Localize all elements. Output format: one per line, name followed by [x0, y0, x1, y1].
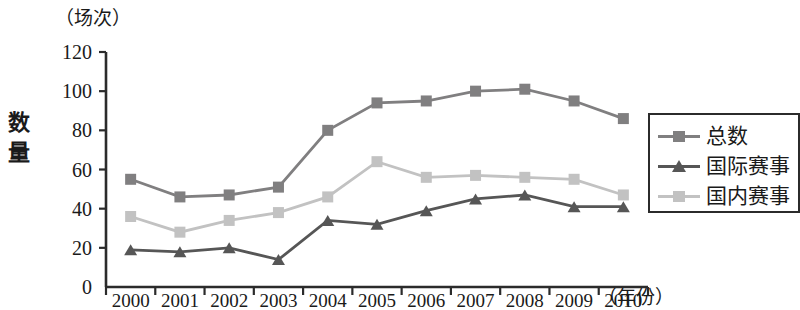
legend-label-2: 国内赛事 [706, 186, 790, 207]
legend-label-0: 总数 [706, 126, 748, 147]
series-marker [421, 172, 432, 183]
legend-marker-square-light-icon [658, 187, 700, 205]
series-marker [618, 189, 629, 200]
legend-marker-square-icon [658, 127, 700, 145]
legend-label-1: 国际赛事 [706, 156, 790, 177]
series-marker [618, 113, 629, 124]
series-marker [322, 125, 333, 136]
series-marker [322, 191, 333, 202]
legend-marker-triangle-icon [658, 157, 700, 175]
legend-item-2[interactable]: 国内赛事 [658, 181, 798, 211]
legend: 总数 国际赛事 国内赛事 [648, 113, 800, 213]
series-0 [125, 84, 629, 203]
axes-layer [99, 52, 648, 295]
legend-item-0[interactable]: 总数 [658, 121, 798, 151]
series-marker [372, 156, 383, 167]
series-marker [421, 95, 432, 106]
series-marker [125, 174, 136, 185]
legend-item-1[interactable]: 国际赛事 [658, 151, 798, 181]
chart-figure: （场次） 数 量 020406080100120 200020012002200… [0, 0, 800, 310]
series-marker [125, 211, 136, 222]
series-marker [273, 207, 284, 218]
series-marker [224, 215, 235, 226]
series-marker [273, 182, 284, 193]
series-marker [569, 95, 580, 106]
series-marker [174, 227, 185, 238]
legend-symbol-1 [672, 160, 686, 172]
series-marker [470, 170, 481, 181]
series-layer [124, 84, 630, 265]
series-marker [519, 172, 530, 183]
series-marker [569, 174, 580, 185]
legend-symbol-2 [673, 191, 685, 202]
series-marker [224, 189, 235, 200]
legend-symbol-0 [673, 131, 685, 142]
series-marker [519, 84, 530, 95]
series-marker [174, 191, 185, 202]
series-marker [470, 86, 481, 97]
series-marker [372, 97, 383, 108]
